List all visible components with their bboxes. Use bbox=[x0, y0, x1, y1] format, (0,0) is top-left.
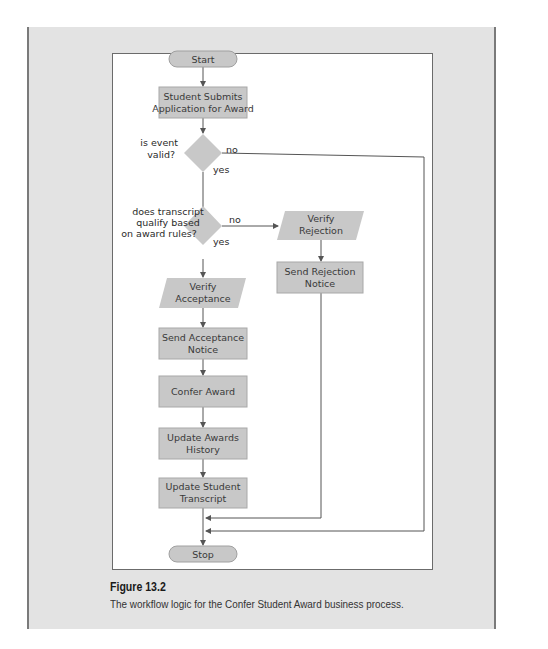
update-history-label-2: History bbox=[186, 444, 220, 455]
send-rejection-label-1: Send Rejection bbox=[285, 266, 356, 277]
decision-qualify-no-label: no bbox=[229, 214, 241, 225]
decision-event-valid: is event valid? no yes bbox=[140, 134, 238, 175]
figure-title: Figure 13.2 bbox=[110, 580, 166, 594]
decision-qualify-label-2: qualify based bbox=[136, 217, 200, 228]
verify-acceptance-io: Verify Acceptance bbox=[159, 278, 246, 308]
stop-terminator: Stop bbox=[169, 546, 237, 562]
update-awards-history-process: Update Awards History bbox=[159, 428, 247, 459]
verify-rejection-label-2: Rejection bbox=[299, 225, 343, 236]
update-history-label-1: Update Awards bbox=[167, 432, 239, 443]
verify-rejection-label-1: Verify bbox=[308, 213, 335, 224]
decision-qualify-label-3: on award rules? bbox=[121, 228, 196, 239]
start-label: Start bbox=[191, 54, 214, 65]
verify-acceptance-label-1: Verify bbox=[190, 281, 217, 292]
start-terminator: Start bbox=[169, 51, 237, 67]
send-rejection-process: Send Rejection Notice bbox=[277, 262, 363, 293]
submit-label-2: Application for Award bbox=[152, 103, 254, 114]
update-student-transcript-process: Update Student Transcript bbox=[159, 478, 247, 508]
verify-acceptance-label-2: Acceptance bbox=[175, 293, 230, 304]
confer-award-process: Confer Award bbox=[159, 376, 247, 407]
send-acceptance-label-2: Notice bbox=[188, 344, 219, 355]
decision-qualify-yes-label: yes bbox=[213, 236, 229, 247]
send-acceptance-label-1: Send Acceptance bbox=[162, 332, 244, 343]
send-rejection-label-2: Notice bbox=[305, 278, 336, 289]
update-transcript-label-2: Transcript bbox=[179, 493, 227, 504]
workflow-diagram: Start Student Submits Application for Aw… bbox=[0, 0, 548, 649]
submit-label-1: Student Submits bbox=[163, 91, 242, 102]
decision-valid-label-2: valid? bbox=[147, 149, 175, 160]
stop-label: Stop bbox=[192, 549, 214, 560]
update-transcript-label-1: Update Student bbox=[166, 481, 241, 492]
figure-caption: The workflow logic for the Confer Studen… bbox=[110, 598, 404, 610]
submit-application-process: Student Submits Application for Award bbox=[152, 87, 254, 118]
verify-rejection-io: Verify Rejection bbox=[277, 211, 364, 240]
send-acceptance-process: Send Acceptance Notice bbox=[159, 328, 247, 359]
confer-award-label: Confer Award bbox=[171, 386, 235, 397]
decision-qualify-label-1: does transcript bbox=[132, 206, 204, 217]
decision-valid-label-1: is event bbox=[140, 137, 178, 148]
decision-valid-yes-label: yes bbox=[213, 164, 229, 175]
decision-valid-no-label: no bbox=[226, 144, 238, 155]
